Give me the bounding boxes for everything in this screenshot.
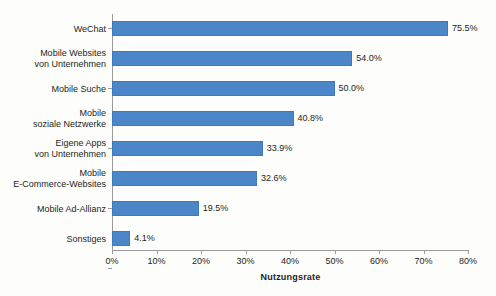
bar-value-label: 4.1%	[130, 231, 155, 246]
bar-row: 54.0%	[0, 44, 496, 74]
bar-row: 32.6%	[0, 164, 496, 194]
bar-value-label: 75.5%	[448, 21, 478, 36]
x-axis-tick	[379, 250, 380, 254]
bar-value-label: 54.0%	[352, 51, 382, 66]
bar[interactable]	[112, 111, 294, 126]
y-axis-tick	[108, 28, 112, 29]
x-axis-tick	[468, 250, 469, 254]
x-axis-tick-label: 70%	[404, 256, 444, 266]
bar-row: 19.5%	[0, 194, 496, 224]
bar-row: 50.0%	[0, 74, 496, 104]
bar[interactable]	[112, 51, 352, 66]
bar[interactable]	[112, 81, 335, 96]
x-axis-tick-label: 20%	[181, 256, 221, 266]
bar-chart: WeChatMobile Websitesvon UnternehmenMobi…	[0, 0, 496, 296]
x-axis-tick	[335, 250, 336, 254]
bar-row: 40.8%	[0, 104, 496, 134]
x-axis-title: Nutzungsrate	[112, 272, 469, 282]
x-axis-tick-label: 40%	[270, 256, 310, 266]
x-axis-tick-label: 60%	[359, 256, 399, 266]
bar-row: 33.9%	[0, 134, 496, 164]
x-axis-tick	[246, 250, 247, 254]
x-axis-tick	[157, 250, 158, 254]
x-axis-tick-label: 0%	[92, 256, 132, 266]
bar-value-label: 19.5%	[199, 201, 229, 216]
bar-row: 4.1%	[0, 224, 496, 254]
bar[interactable]	[112, 21, 448, 36]
bar-value-label: 32.6%	[257, 171, 287, 186]
bar[interactable]	[112, 201, 199, 216]
x-axis-tick-label: 30%	[226, 256, 266, 266]
x-axis-tick	[201, 250, 202, 254]
x-axis-tick	[112, 250, 113, 254]
bar-row: 75.5%	[0, 14, 496, 44]
bar-value-label: 50.0%	[335, 81, 365, 96]
x-axis-tick	[424, 250, 425, 254]
bar-value-label: 33.9%	[263, 141, 293, 156]
x-axis-tick-label: 50%	[315, 256, 355, 266]
x-axis-tick-label: 10%	[137, 256, 177, 266]
bar-value-label: 40.8%	[294, 111, 324, 126]
x-axis-tick-label: 80%	[448, 256, 488, 266]
y-axis-tick	[108, 268, 112, 269]
x-axis-tick	[290, 250, 291, 254]
bar[interactable]	[112, 231, 130, 246]
bar[interactable]	[112, 141, 263, 156]
bar[interactable]	[112, 171, 257, 186]
